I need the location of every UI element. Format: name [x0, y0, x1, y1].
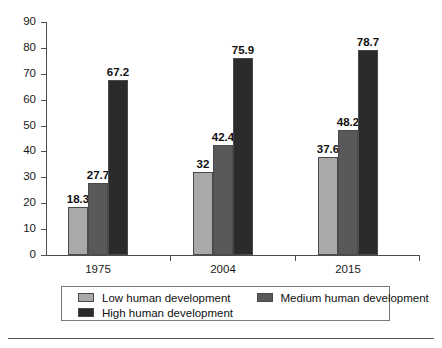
x-axis-label-1975: 1975 — [85, 263, 111, 275]
bar-value-2015-low: 37.6 — [317, 143, 339, 156]
legend-label-low: Low human development — [102, 292, 231, 304]
y-tick-40: 40 — [41, 151, 46, 152]
legend-entry-medium: Medium human development — [257, 292, 429, 304]
y-tick-label-50: 50 — [23, 118, 36, 133]
y-tick-label-80: 80 — [23, 40, 36, 55]
y-tick-20: 20 — [41, 203, 46, 204]
y-tick-70: 70 — [41, 74, 46, 75]
bar-value-2004-medium: 42.4 — [212, 131, 234, 144]
x-tick-3 — [419, 256, 420, 261]
y-tick-80: 80 — [41, 48, 46, 49]
y-tick-0: 0 — [41, 255, 46, 256]
bar-value-2015-high: 78.7 — [357, 36, 379, 49]
bar-chart: 0 10 20 30 40 50 60 70 80 90 — [0, 0, 442, 348]
y-axis-line — [46, 22, 47, 256]
x-axis-label-2004: 2004 — [210, 263, 236, 275]
bar-value-2004-high: 75.9 — [232, 44, 254, 57]
legend-row-1: Low human development Medium human devel… — [78, 290, 389, 305]
x-axis-line — [46, 255, 420, 256]
bar-value-1975-low: 18.3 — [67, 193, 89, 206]
legend-entry-high: High human development — [78, 307, 233, 319]
x-tick-1 — [170, 256, 171, 261]
bar-1975-medium: 27.7 — [88, 183, 108, 255]
chart-legend: Low human development Medium human devel… — [61, 286, 390, 321]
legend-swatch-high-icon — [78, 308, 94, 317]
bar-1975-low: 18.3 — [68, 207, 88, 255]
legend-row-2: High human development — [78, 305, 389, 320]
x-tick-2 — [295, 256, 296, 261]
bar-2015-low: 37.6 — [318, 157, 338, 255]
plot-area: 0 10 20 30 40 50 60 70 80 90 — [46, 22, 420, 256]
legend-swatch-medium-icon — [257, 293, 273, 302]
bar-2004-low: 32 — [193, 172, 213, 255]
y-tick-label-70: 70 — [23, 66, 36, 81]
y-tick-30: 30 — [41, 177, 46, 178]
legend-label-medium: Medium human development — [281, 292, 429, 304]
y-tick-label-20: 20 — [23, 195, 36, 210]
bar-value-1975-high: 67.2 — [107, 66, 129, 79]
y-tick-60: 60 — [41, 100, 46, 101]
y-tick-90: 90 — [41, 22, 46, 23]
x-axis-label-2015: 2015 — [335, 263, 361, 275]
bar-2015-medium: 48.2 — [338, 130, 358, 255]
legend-swatch-low-icon — [78, 293, 94, 302]
bar-1975-high: 67.2 — [108, 80, 128, 255]
bar-value-1975-medium: 27.7 — [87, 169, 109, 182]
bar-2015-high: 78.7 — [358, 50, 378, 255]
y-tick-label-0: 0 — [30, 247, 36, 262]
bar-2004-medium: 42.4 — [213, 145, 233, 255]
y-tick-label-30: 30 — [23, 169, 36, 184]
y-tick-label-10: 10 — [23, 221, 36, 236]
bar-value-2004-low: 32 — [197, 158, 210, 171]
y-tick-10: 10 — [41, 229, 46, 230]
y-tick-label-90: 90 — [23, 14, 36, 29]
legend-entry-low: Low human development — [78, 292, 231, 304]
bar-2004-high: 75.9 — [233, 58, 253, 255]
y-tick-50: 50 — [41, 126, 46, 127]
y-tick-label-40: 40 — [23, 143, 36, 158]
bar-value-2015-medium: 48.2 — [337, 116, 359, 129]
bottom-divider — [8, 338, 434, 339]
y-tick-label-60: 60 — [23, 92, 36, 107]
legend-label-high: High human development — [102, 307, 233, 319]
